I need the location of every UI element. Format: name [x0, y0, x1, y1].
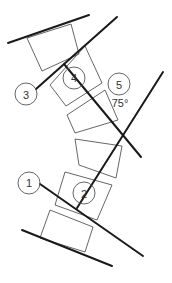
lower-perpendicular-line: [77, 72, 163, 208]
callout-label: 2: [81, 188, 87, 200]
vertebra-3: [67, 90, 118, 133]
callout-4: 4: [63, 67, 85, 89]
callout-1: 1: [18, 172, 40, 194]
callout-label: 5: [116, 79, 122, 91]
bottom-endplate-line: [22, 230, 112, 266]
spine-cobb-angle-diagram: 3 4 5 1 2 75°: [0, 0, 172, 283]
callout-label: 4: [71, 72, 77, 84]
top-endplate-line: [8, 15, 89, 43]
lower-endplate-line: [40, 184, 143, 256]
callout-3: 3: [15, 83, 37, 105]
callout-label: 3: [23, 89, 29, 101]
cobb-angle-label: 75°: [112, 97, 129, 109]
callout-2: 2: [73, 182, 95, 204]
vertebra-1: [27, 24, 79, 71]
callout-5: 5: [108, 73, 130, 95]
callout-label: 1: [26, 177, 32, 189]
